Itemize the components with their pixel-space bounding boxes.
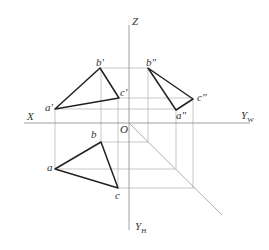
label-a: a: [47, 162, 53, 173]
origin-label: O: [120, 124, 128, 135]
side-view-triangle: [148, 68, 193, 110]
label-c-prime: c': [120, 87, 127, 98]
top-view-triangle: [55, 142, 118, 188]
label-b-prime: b': [96, 57, 104, 68]
front-view-triangle: [55, 68, 119, 109]
axis-label-z: Z: [132, 16, 138, 27]
label-b: b: [91, 129, 97, 140]
axis-label-yh: YH: [135, 221, 146, 235]
label-b-double-prime: b": [146, 57, 156, 68]
axis-label-yw: YW: [241, 110, 254, 124]
axes: [24, 25, 250, 230]
label-a-prime: a': [45, 102, 53, 113]
projection-diagram: [0, 0, 269, 250]
label-a-double-prime: a": [176, 110, 186, 121]
label-c-double-prime: c": [197, 92, 207, 103]
label-c: c: [115, 190, 120, 201]
axis-label-x: X: [27, 111, 34, 122]
